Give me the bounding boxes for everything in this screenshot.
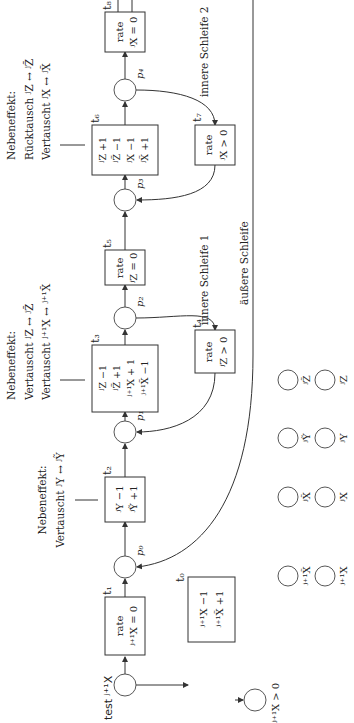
svg-text:ʲ⁺¹X̃ −1: ʲ⁺¹X̃ −1 [139, 360, 150, 395]
transition-t1: t₁ rate ʲ⁺¹X = 0 [101, 586, 145, 655]
svg-text:test ʲ⁺¹X: test ʲ⁺¹X [102, 675, 115, 720]
svg-text:Vertauscht ʲ⁺¹X ↔ ʲ⁺¹X̃: Vertauscht ʲ⁺¹X ↔ ʲ⁺¹X̃ [40, 283, 52, 401]
svg-text:rate: rate [203, 135, 214, 156]
svg-text:rate: rate [114, 258, 125, 279]
annotation-t6: Nebeneffekt: Rücktausch ʲZ ↔ ʲZ̃ Vertaus… [5, 59, 85, 161]
svg-text:p₀: p₀ [134, 546, 145, 556]
svg-text:ʲZ̃ −1: ʲZ̃ −1 [111, 137, 122, 163]
transition-t5: t₅ rate ʲZ = 0 [101, 239, 145, 285]
t0-label: t₀ [174, 573, 187, 582]
place-p0: p₀ [114, 546, 145, 578]
svg-text:ʲX = 0: ʲX = 0 [128, 17, 139, 48]
svg-text:t₂: t₂ [101, 466, 114, 475]
inner-loop-1-label: innere Schleife 1 [198, 234, 210, 325]
transition-t7: t₇ rate ʲX > 0 [191, 113, 235, 165]
svg-text:ʲỸ: ʲỸ [301, 433, 312, 443]
svg-text:t₇: t₇ [191, 113, 204, 122]
inner-loop-2-label: innere Schleife 2 [198, 6, 210, 97]
annotation-t2: Nebeneffekt: Vertauscht ʲY ↔ ʲỸ [36, 451, 98, 549]
annotation-t3: Nebeneffekt: Vertauscht ʲZ ↔ ʲZ̃ Vertaus… [5, 283, 85, 401]
outer-loop-label: äußere Schleife [238, 221, 250, 305]
svg-text:ʲ⁺¹X > 0: ʲ⁺¹X > 0 [270, 683, 281, 723]
place-p3: p₃ [114, 179, 145, 211]
place-p1: p₁ [114, 411, 145, 443]
svg-text:Nebeneffekt:: Nebeneffekt: [5, 331, 17, 400]
svg-text:p₃: p₃ [134, 179, 145, 189]
state-places-plain: ʲ⁺¹X ʲX ʲY ʲZ [315, 370, 349, 586]
svg-text:Vertauscht ʲX ↔ ʲX̃: Vertauscht ʲX ↔ ʲX̃ [40, 63, 52, 161]
state-places-tilde: ʲ⁺¹X̃ ʲX̃ ʲỸ ʲZ̃ [278, 370, 312, 586]
svg-text:rate: rate [114, 616, 125, 637]
transition-t2: t₂ ʲY −1 ʲỸ +1 [101, 466, 145, 522]
svg-text:t₅: t₅ [101, 239, 114, 248]
svg-text:ʲ⁺¹X: ʲ⁺¹X [338, 566, 349, 586]
transition-t4: t₄ rate ʲZ > 0 [191, 319, 235, 373]
svg-text:t₁: t₁ [101, 586, 114, 595]
svg-text:rate: rate [114, 22, 125, 43]
svg-text:Nebeneffekt:: Nebeneffekt: [36, 465, 48, 534]
place-result: ʲ⁺¹X > 0 [244, 683, 281, 723]
svg-text:ʲ⁺¹X −1: ʲ⁺¹X −1 [198, 591, 209, 628]
svg-text:ʲX̃: ʲX̃ [301, 491, 312, 502]
svg-text:ʲY: ʲY [338, 433, 349, 443]
transition-t3: t₃ ʲZ −1 ʲZ̃ +1 ʲ⁺¹X + 1 ʲ⁺¹X̃ −1 [89, 334, 158, 412]
svg-text:ʲZ̃ +1: ʲZ̃ +1 [111, 365, 122, 391]
petri-net-diagram: t₀ ʲ⁺¹X −1 ʲ⁺¹X̃ +1 t₁ rate ʲ⁺¹X = 0 t₂ … [0, 0, 354, 723]
svg-text:ʲ⁺¹X̃ +1: ʲ⁺¹X̃ +1 [214, 591, 225, 628]
svg-text:Vertauscht ʲY ↔ ʲỸ: Vertauscht ʲY ↔ ʲỸ [53, 451, 66, 549]
svg-text:p₂: p₂ [134, 297, 145, 307]
svg-text:ʲX̃ +1: ʲX̃ +1 [139, 137, 150, 163]
svg-text:ʲX > 0: ʲX > 0 [218, 130, 229, 161]
transition-t0: t₀ ʲ⁺¹X −1 ʲ⁺¹X̃ +1 [174, 573, 235, 642]
svg-text:ʲY −1: ʲY −1 [114, 485, 125, 512]
svg-text:Vertauscht ʲZ ↔ ʲZ̃: Vertauscht ʲZ ↔ ʲZ̃ [23, 304, 35, 401]
svg-text:ʲ⁺¹X = 0: ʲ⁺¹X = 0 [128, 606, 139, 646]
place-test: test ʲ⁺¹X [102, 674, 136, 720]
svg-text:ʲ⁺¹X̃: ʲ⁺¹X̃ [301, 566, 312, 586]
svg-text:t₈: t₈ [101, 1, 114, 10]
place-p4: p₄ [114, 69, 145, 101]
svg-text:rate: rate [203, 342, 214, 363]
svg-text:Nebeneffekt:: Nebeneffekt: [5, 91, 17, 160]
transition-t8: t₈ rate ʲX = 0 [101, 1, 145, 52]
svg-text:p₄: p₄ [134, 69, 145, 79]
outer-loop-edge [137, 0, 253, 567]
svg-text:ʲZ̃: ʲZ̃ [301, 375, 312, 385]
svg-text:ʲZ: ʲZ [338, 375, 349, 385]
svg-text:ʲZ +1: ʲZ +1 [97, 137, 108, 163]
svg-text:t₃: t₃ [89, 334, 102, 343]
svg-text:ʲZ −1: ʲZ −1 [97, 365, 108, 391]
svg-text:p₁: p₁ [134, 411, 145, 421]
svg-text:ʲZ > 0: ʲZ > 0 [218, 337, 229, 368]
svg-text:t₆: t₆ [89, 114, 102, 123]
svg-text:ʲX −1: ʲX −1 [125, 137, 136, 163]
transition-t6: t₆ ʲZ +1 ʲZ̃ −1 ʲX −1 ʲX̃ +1 [89, 114, 158, 175]
place-p2: p₂ [114, 297, 145, 329]
svg-text:Rücktausch ʲZ ↔ ʲZ̃: Rücktausch ʲZ ↔ ʲZ̃ [23, 59, 35, 160]
svg-text:ʲ⁺¹X + 1: ʲ⁺¹X + 1 [125, 359, 136, 397]
svg-text:ʲỸ +1: ʲỸ +1 [128, 485, 139, 512]
svg-text:ʲZ = 0: ʲZ = 0 [128, 253, 139, 284]
svg-text:ʲX: ʲX [338, 491, 349, 502]
